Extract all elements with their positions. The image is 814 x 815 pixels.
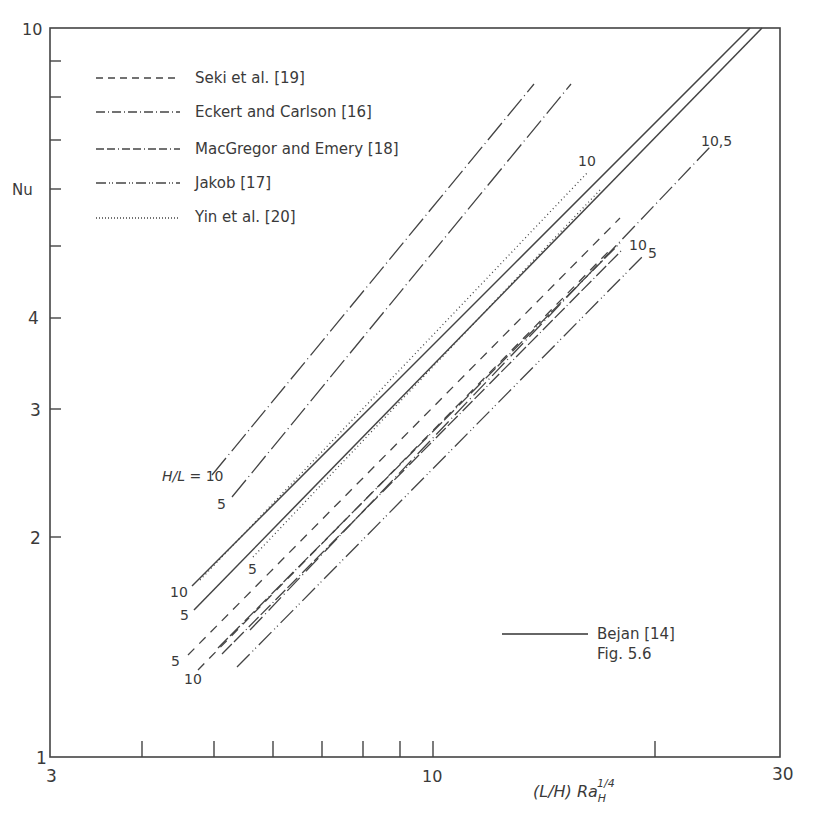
legend-label-jakob: Jakob [17] — [194, 174, 271, 192]
label-right-5: 5 — [648, 245, 657, 261]
plot-frame — [50, 28, 780, 757]
label-yin-5: 5 — [248, 561, 257, 577]
legend-label-bejan-fig: Fig. 5.6 — [597, 645, 652, 663]
yin-5-line — [253, 190, 600, 557]
label-seki-10: 10 — [184, 671, 202, 687]
label-yin-10: 10 — [578, 153, 596, 169]
legend — [96, 78, 180, 218]
y-tick-10: 10 — [22, 20, 42, 39]
x-tick-30: 30 — [772, 764, 794, 784]
legend-label-eckert: Eckert and Carlson [16] — [195, 103, 372, 121]
seki-10-line — [198, 248, 612, 670]
jakob-5-line — [237, 256, 643, 667]
label-seki-5: 5 — [171, 653, 180, 669]
seki-5-line — [188, 218, 620, 655]
y-tick-2: 2 — [30, 528, 41, 548]
legend-label-bejan: Bejan [14] — [597, 625, 675, 643]
macgregor-5-line — [222, 250, 622, 654]
eckert-lower-line — [250, 146, 711, 630]
y-label: Nu — [12, 181, 33, 199]
label-bejan-10: 10 — [170, 584, 188, 600]
legend-label-macgregor: MacGregor and Emery [18] — [195, 140, 399, 158]
yin-10-line — [200, 172, 588, 580]
label-hl-10: H/L = 10 — [162, 468, 224, 484]
chart: 10 Nu 4 3 2 1 3 10 30 (L/H) RaH1/4 Seki … — [0, 0, 814, 815]
macgregor-10-line — [218, 243, 620, 648]
x-axis-label: (L/H) RaH1/4 — [533, 777, 615, 805]
label-right-10: 10 — [629, 237, 647, 253]
x-label-main: (L/H) Ra — [533, 782, 598, 801]
y-tick-1: 1 — [36, 748, 47, 768]
y-tick-3: 3 — [30, 400, 41, 420]
x-tick-3: 3 — [46, 766, 57, 786]
x-label-sup: 1/4 — [597, 777, 615, 790]
x-ticks — [142, 741, 655, 757]
series-lines — [188, 28, 762, 670]
x-tick-10: 10 — [422, 767, 442, 786]
x-label-sub: H — [598, 792, 606, 805]
label-hl-prefix: H/L = — [162, 468, 206, 484]
y-tick-4: 4 — [28, 308, 39, 328]
label-bejan-5: 5 — [180, 607, 189, 623]
legend-label-yin: Yin et al. [20] — [194, 208, 296, 226]
legend-label-seki: Seki et al. [19] — [195, 69, 305, 87]
label-eckert-5: 5 — [217, 496, 226, 512]
label-hl-value: 10 — [206, 468, 224, 484]
label-right-10-5: 10,5 — [701, 133, 732, 149]
y-ticks — [50, 61, 61, 537]
